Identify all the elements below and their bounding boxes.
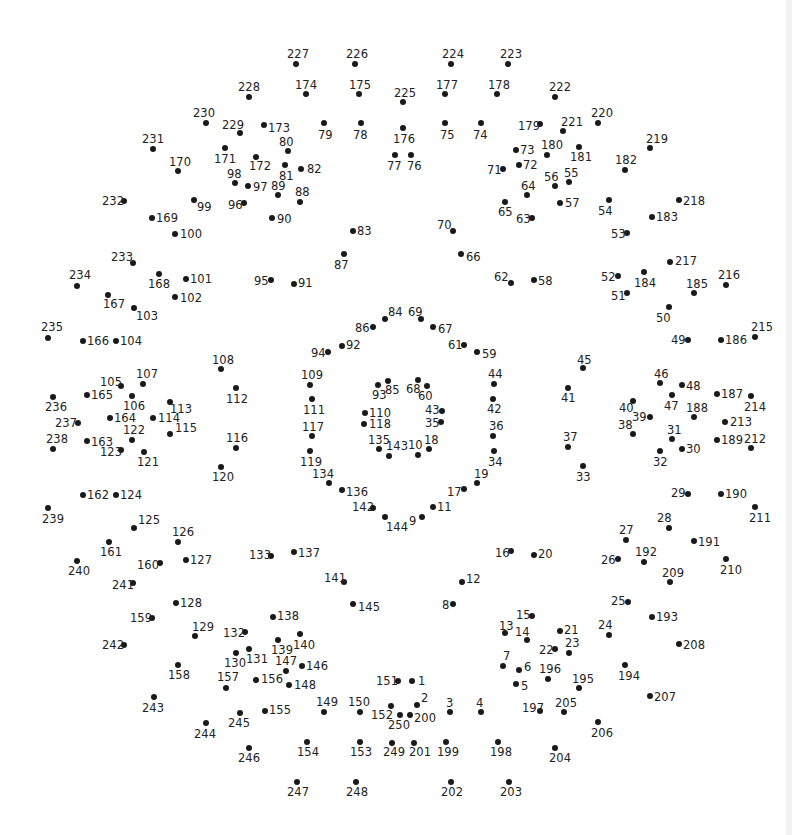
dot-72: [516, 162, 522, 168]
dot-226: [352, 61, 358, 67]
dot-label: 120: [212, 472, 234, 484]
dot-109: [307, 382, 313, 388]
dot-label: 158: [168, 670, 190, 682]
dot-11: [430, 504, 436, 510]
dot-label: 111: [303, 405, 325, 417]
dot-label: 179: [518, 121, 540, 133]
dot-label: 64: [521, 181, 536, 193]
dot-label: 156: [261, 674, 283, 686]
dot-to-dot-puzzle: 1234567891011121314151617181920212223242…: [0, 0, 792, 835]
dot-label: 164: [114, 413, 136, 425]
dot-label: 102: [180, 293, 202, 305]
dot-194: [622, 662, 628, 668]
dot-label: 132: [223, 628, 245, 640]
dot-44: [491, 381, 497, 387]
dot-label: 210: [720, 565, 742, 577]
dot-29: [685, 491, 691, 497]
dot-111: [309, 396, 315, 402]
dot-label: 59: [482, 349, 497, 361]
dot-label: 49: [671, 335, 686, 347]
dot-label: 176: [393, 134, 415, 146]
dot-label: 183: [656, 212, 678, 224]
dot-label: 222: [549, 82, 571, 94]
dot-50: [666, 304, 672, 310]
dot-label: 96: [228, 200, 243, 212]
dot-239: [45, 505, 51, 511]
dot-78: [358, 120, 364, 126]
dot-115: [167, 431, 173, 437]
dot-label: 26: [601, 555, 616, 567]
dot-label: 201: [409, 747, 431, 759]
dot-label: 196: [539, 664, 561, 676]
dot-label: 188: [686, 403, 708, 415]
dot-label: 227: [287, 49, 309, 61]
dot-216: [723, 282, 729, 288]
dot-186: [718, 337, 724, 343]
dot-label: 112: [226, 394, 248, 406]
dot-label: 42: [487, 404, 502, 416]
dot-label: 189: [721, 435, 743, 447]
dot-79: [321, 120, 327, 126]
dot-label: 238: [46, 434, 68, 446]
dot-label: 239: [42, 514, 64, 526]
dot-label: 25: [611, 596, 626, 608]
dot-label: 100: [180, 229, 202, 241]
dot-label: 73: [520, 145, 535, 157]
dot-label: 58: [538, 276, 553, 288]
dot-label: 21: [564, 625, 579, 637]
dot-label: 20: [538, 549, 553, 561]
dot-81: [282, 162, 288, 168]
dot-47: [669, 392, 675, 398]
dot-label: 80: [279, 137, 294, 149]
dot-26: [615, 556, 621, 562]
dot-label: 39: [632, 412, 647, 424]
dot-label: 34: [488, 457, 503, 469]
dot-196: [545, 676, 551, 682]
dot-label: 229: [222, 120, 244, 132]
dot-label: 70: [437, 220, 452, 232]
dot-label: 197: [522, 703, 544, 715]
dot-162: [80, 492, 86, 498]
dot-label: 175: [349, 80, 371, 92]
dot-label: 24: [598, 620, 613, 632]
dot-label: 71: [487, 165, 502, 177]
dot-label: 22: [539, 645, 554, 657]
dot-label: 208: [683, 640, 705, 652]
dot-100: [172, 231, 178, 237]
dot-label: 207: [654, 692, 676, 704]
dot-label: 185: [686, 279, 708, 291]
dot-label: 32: [653, 457, 668, 469]
dot-label: 228: [238, 82, 260, 94]
dot-label: 240: [68, 566, 90, 578]
dot-label: 63: [516, 214, 531, 226]
dot-label: 46: [654, 369, 669, 381]
dot-label: 138: [277, 611, 299, 623]
dot-234: [74, 283, 80, 289]
dot-label: 236: [45, 402, 67, 414]
dot-label: 92: [346, 340, 361, 352]
dot-label: 249: [383, 747, 405, 759]
dot-label: 28: [657, 513, 672, 525]
dot-164: [107, 415, 113, 421]
dot-label: 165: [91, 390, 113, 402]
dot-223: [505, 61, 511, 67]
dot-label: 148: [294, 680, 316, 692]
dot-215: [752, 334, 758, 340]
dot-label: 171: [214, 154, 236, 166]
dot-147: [283, 668, 289, 674]
dot-label: 29: [671, 488, 686, 500]
dot-label: 247: [287, 787, 309, 799]
dot-label: 216: [718, 270, 740, 282]
dot-label: 48: [686, 381, 701, 393]
dot-2: [414, 702, 420, 708]
dot-label: 75: [440, 130, 455, 142]
dot-label: 9: [409, 516, 416, 528]
dot-label: 53: [611, 229, 626, 241]
dot-label: 167: [103, 299, 125, 311]
dot-label: 122: [123, 425, 145, 437]
dot-label: 162: [87, 490, 109, 502]
dot-34: [491, 448, 497, 454]
dot-137: [291, 549, 297, 555]
dot-156: [253, 677, 259, 683]
dot-label: 116: [226, 433, 248, 445]
